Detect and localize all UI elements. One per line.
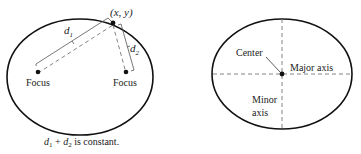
point-xy-label: (x, y) — [110, 6, 133, 19]
focus-right-label: Focus — [113, 77, 137, 88]
major-axis-label: Major axis — [290, 62, 333, 73]
focus-left-label: Focus — [26, 77, 50, 88]
focus-right-dot — [124, 70, 129, 75]
right-ellipse-figure: Center Major axis Minor axis — [212, 19, 352, 129]
dashed-line-d2 — [113, 25, 126, 73]
center-dot — [280, 72, 285, 77]
focus-left-dot — [36, 70, 41, 75]
bracket-d1-tick — [72, 41, 74, 44]
minor-axis-label-line2: axis — [252, 107, 268, 118]
minor-axis-label-line1: Minor — [252, 94, 278, 105]
ellipse-diagram: (x, y) d1 d2 Focus Focus d1 + d2 is cons… — [0, 0, 361, 154]
center-label: Center — [236, 47, 263, 58]
center-pointer — [266, 57, 280, 72]
left-ellipse-figure: (x, y) d1 d2 Focus Focus d1 + d2 is cons… — [7, 6, 153, 149]
caption: d1 + d2 is constant. — [44, 136, 119, 149]
d1-label: d1 — [64, 24, 73, 39]
d2-label: d2 — [130, 42, 140, 57]
dashed-line-d1 — [38, 25, 113, 73]
point-xy-dot — [111, 21, 116, 26]
